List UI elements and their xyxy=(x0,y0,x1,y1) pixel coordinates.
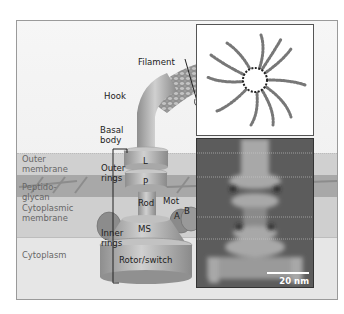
label-rod: Rod xyxy=(138,198,154,208)
label-rotor-switch: Rotor/switch xyxy=(119,255,172,265)
label-A: A xyxy=(174,211,180,221)
label-L-ring: L xyxy=(143,156,148,166)
em-density-map xyxy=(197,139,313,287)
scale-bar-label: 20 nm xyxy=(279,276,309,286)
electron-micrograph: 20 nm xyxy=(196,138,314,288)
label-hook: Hook xyxy=(104,91,126,101)
label-P-ring: P xyxy=(143,177,148,187)
label-inner-rings: Innerrings xyxy=(101,228,123,248)
label-B: B xyxy=(184,206,190,216)
filament-cross-section-inset xyxy=(196,24,314,136)
label-basal-body: Basalbody xyxy=(100,125,123,145)
label-mot: Mot xyxy=(163,196,179,206)
label-outer-rings: Outerrings xyxy=(101,163,125,183)
scale-bar xyxy=(267,272,309,274)
label-MS-ring: MS xyxy=(138,224,151,234)
label-filament: Filament xyxy=(138,57,175,67)
spiral-subunits-illustration xyxy=(197,25,313,135)
